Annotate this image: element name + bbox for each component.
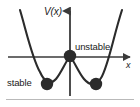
stable-equilibrium-dot-right	[90, 78, 102, 90]
stable-equilibrium-dot-left	[41, 78, 53, 90]
potential-plot-svg	[0, 0, 140, 107]
bottom-divider	[6, 99, 134, 100]
y-axis-label: V(x)	[44, 7, 62, 17]
unstable-point-label: unstable	[75, 42, 110, 52]
stable-point-label: stable	[7, 78, 32, 88]
potential-energy-diagram: V(x) x unstable stable	[0, 0, 140, 107]
x-axis-label: x	[126, 61, 130, 70]
